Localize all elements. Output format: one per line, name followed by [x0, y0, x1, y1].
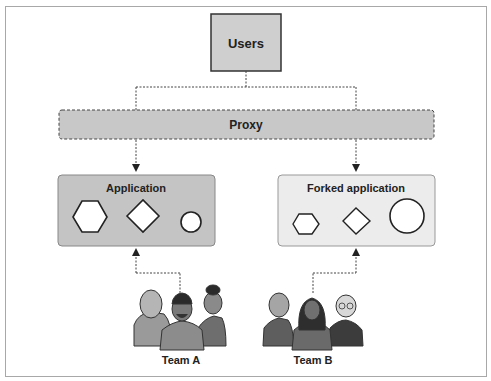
team-connectors	[136, 252, 356, 293]
proxy-connectors	[136, 140, 356, 168]
diagram-canvas: Users Proxy Application Forked applicati…	[0, 0, 491, 381]
person-icon	[329, 295, 363, 346]
users-connector	[136, 71, 356, 110]
application-node: Application	[58, 175, 215, 246]
application-label: Application	[106, 182, 166, 194]
team-b-label: Team B	[294, 354, 333, 366]
person-icon	[263, 293, 294, 346]
users-node: Users	[211, 14, 281, 71]
large-circle-icon	[390, 199, 424, 233]
forked-application-label: Forked application	[307, 182, 405, 194]
team-a-label: Team A	[162, 354, 201, 366]
forked-application-node: Forked application	[278, 175, 435, 246]
circle-icon	[181, 212, 201, 232]
team-a-group	[134, 285, 226, 350]
team-b-group	[263, 293, 363, 350]
users-label: Users	[228, 36, 264, 51]
proxy-label: Proxy	[229, 118, 263, 132]
person-icon	[292, 298, 332, 350]
proxy-node: Proxy	[59, 110, 434, 139]
